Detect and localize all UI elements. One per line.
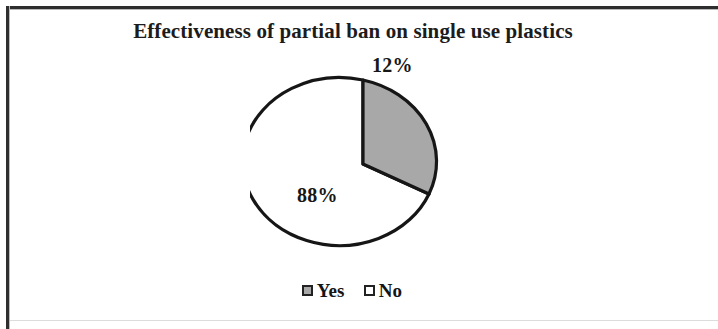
legend-swatch-no-icon xyxy=(364,285,375,296)
chart-legend: Yes No xyxy=(0,281,718,300)
pie-svg xyxy=(250,50,480,265)
legend-swatch-yes-icon xyxy=(302,285,313,296)
chart-title: Effectiveness of partial ban on single u… xyxy=(0,19,718,44)
pie-slice-label-no: 88% xyxy=(297,184,338,207)
frame-scan-line-bottom xyxy=(10,320,718,321)
legend-label-yes: Yes xyxy=(317,281,345,300)
pie-slice-label-yes: 12% xyxy=(372,54,413,77)
legend-label-no: No xyxy=(379,281,403,300)
pie-chart-figure: Effectiveness of partial ban on single u… xyxy=(0,0,718,329)
frame-border-top xyxy=(6,6,718,9)
pie-plot-area xyxy=(250,50,480,265)
legend-item-no[interactable]: No xyxy=(364,281,403,300)
legend-item-yes[interactable]: Yes xyxy=(302,281,345,300)
